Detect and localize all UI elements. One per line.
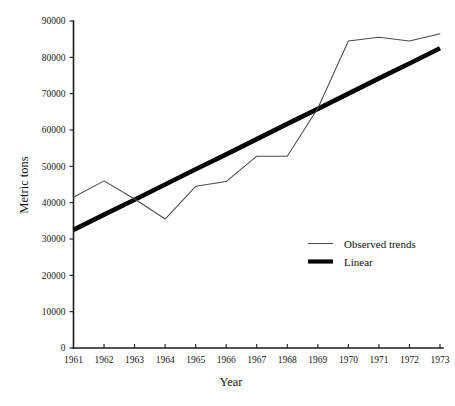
x-tick-label: 1964: [156, 355, 175, 365]
x-tick-label: 1972: [400, 355, 419, 365]
y-tick-label: 90000: [42, 16, 66, 26]
x-tick-label: 1968: [278, 355, 297, 365]
series-line-observed: [74, 34, 441, 219]
legend-label-observed: Observed trends: [344, 238, 416, 250]
x-tick-label: 1962: [95, 355, 114, 365]
x-tick-label: 1970: [339, 355, 358, 365]
y-tick-label: 0: [61, 343, 66, 353]
x-tick-label: 1971: [369, 355, 388, 365]
series-line-linear: [74, 48, 441, 230]
legend: Observed trends Linear: [308, 238, 416, 269]
y-tick-label: 10000: [42, 307, 66, 317]
legend-label-linear: Linear: [344, 256, 373, 268]
x-tick-label: 1963: [125, 355, 144, 365]
x-tick-label: 1966: [217, 355, 236, 365]
y-tick-label: 30000: [42, 234, 66, 244]
x-tick-label: 1965: [186, 355, 205, 365]
x-tick-label: 1969: [308, 355, 327, 365]
y-tick-label: 50000: [42, 162, 66, 172]
y-tick-label: 80000: [42, 53, 66, 63]
x-tick-label: 1973: [431, 355, 450, 365]
y-tick-label: 70000: [42, 89, 66, 99]
x-tick-labels: 1961196219631964196519661967196819691970…: [64, 355, 450, 365]
x-axis-title: Year: [219, 375, 243, 389]
y-tick-labels: 0100002000030000400005000060000700008000…: [42, 16, 66, 353]
y-axis-title: Metric tons: [17, 156, 31, 213]
x-tick-label: 1967: [247, 355, 266, 365]
y-tick-label: 60000: [42, 125, 66, 135]
y-axis-group: 0100002000030000400005000060000700008000…: [42, 16, 74, 353]
x-tick-label: 1961: [64, 355, 83, 365]
y-tick-label: 20000: [42, 271, 66, 281]
y-tick-label: 40000: [42, 198, 66, 208]
chart-container: 0100002000030000400005000060000700008000…: [0, 0, 455, 406]
x-axis-group: 1961196219631964196519661967196819691970…: [64, 344, 450, 365]
line-chart-svg: 0100002000030000400005000060000700008000…: [0, 0, 455, 406]
